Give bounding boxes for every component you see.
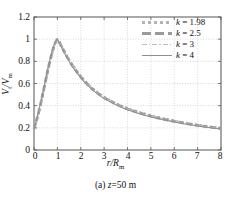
chart-legend: k = 1.98 k = 2.5 k = 3 k = 4	[142, 17, 220, 61]
legend-item: k = 3	[142, 39, 220, 50]
legend-line-dotted-icon	[142, 18, 172, 28]
legend-label-value: = 3	[180, 39, 194, 49]
legend-label: k = 3	[176, 40, 194, 49]
legend-label: k = 2.5	[176, 29, 201, 38]
x-axis-sub-m: m	[119, 163, 124, 170]
legend-item: k = 4	[142, 50, 220, 61]
y-tick-label: 1	[4, 35, 30, 45]
figure-caption: (a) z=50 m	[0, 180, 231, 190]
legend-line-solid-icon	[142, 51, 172, 61]
legend-line-dashed-icon	[142, 29, 172, 39]
x-axis-title-text: r/R	[107, 158, 119, 168]
legend-label-value: = 1.98	[180, 17, 205, 27]
legend-label-value: = 4	[180, 50, 194, 60]
legend-label-value: = 2.5	[180, 28, 201, 38]
legend-line-dashdot-icon	[142, 40, 172, 50]
y-axis-title-text: V	[1, 89, 11, 95]
legend-label: k = 4	[176, 51, 194, 60]
y-tick-label: 0.2	[4, 124, 30, 134]
figure-panel: 1.2 1 0.8 0.6 0.4 0.2 0 0 1 2 3 4 5 6 7 …	[0, 0, 231, 198]
y-tick-label: 1.2	[4, 13, 30, 23]
caption-rest: =50 m	[112, 180, 137, 190]
y-tick-label: 0	[4, 146, 30, 156]
legend-item: k = 2.5	[142, 28, 220, 39]
y-axis-title-text-2: V	[1, 79, 11, 85]
y-axis-sub-t: t	[6, 87, 13, 89]
y-axis-title: Vt/Vm	[1, 64, 13, 104]
legend-label: k = 1.98	[176, 18, 205, 27]
x-axis-title: r/Rm	[0, 158, 231, 170]
caption-prefix: (a)	[95, 180, 106, 190]
legend-item: k = 1.98	[142, 17, 220, 28]
y-axis-sub-m: m	[6, 73, 13, 78]
